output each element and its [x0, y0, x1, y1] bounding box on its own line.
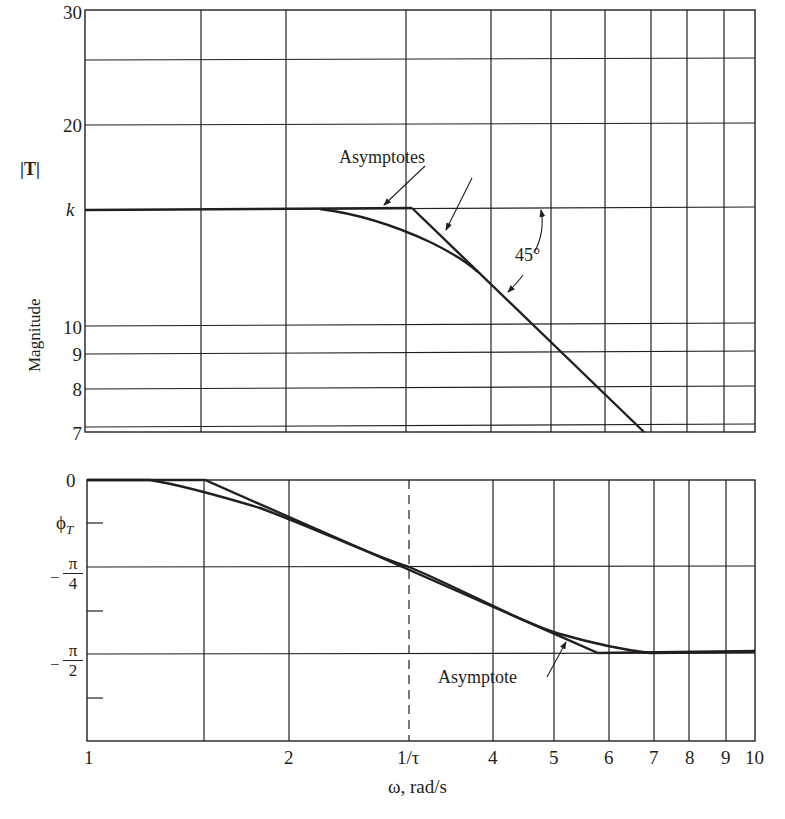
x-tick-1-over-tau: 1/τ: [397, 748, 419, 767]
asymptote-label: Asymptote: [438, 668, 517, 686]
phase-tick-0: 0: [66, 471, 76, 490]
x-tick-7: 7: [649, 748, 659, 767]
phase-tick-minus-pi-over-2: π 2: [63, 642, 83, 679]
magnitude-high-asymptote: [412, 208, 644, 432]
phi-symbol: ϕ: [56, 512, 66, 533]
mag-tick-30: 30: [42, 3, 82, 22]
angle-label: 45°: [515, 246, 540, 264]
magnitude-axis-title: Magnitude: [25, 298, 45, 372]
phase-grid: [87, 480, 755, 741]
asymptotes-label: Asymptotes: [339, 148, 425, 166]
magnitude-curves: [85, 208, 644, 432]
magnitude-grid: [85, 10, 755, 432]
pi-numerator: π: [63, 555, 83, 574]
phi-subscript: T: [66, 522, 73, 537]
magnitude-exact-curve: [320, 209, 478, 272]
two-denominator: 2: [63, 661, 83, 679]
minus-pi2-sign: −: [50, 655, 60, 675]
x-tick-9: 9: [721, 748, 731, 767]
mag-tick-7: 7: [42, 424, 82, 443]
mag-tick-10: 10: [42, 318, 82, 337]
x-tick-4: 4: [488, 748, 498, 767]
x-tick-2: 2: [284, 748, 294, 767]
x-tick-1: 1: [84, 748, 94, 767]
x-tick-6: 6: [604, 748, 614, 767]
x-tick-5: 5: [549, 748, 559, 767]
phase-symbol: ϕT: [56, 513, 73, 536]
phase-tick-minus-pi-over-4: π 4: [63, 555, 83, 592]
bode-plot-graphics: [0, 0, 785, 819]
x-tick-8: 8: [685, 748, 695, 767]
mag-tick-20: 20: [42, 116, 82, 135]
pi-numerator: π: [63, 642, 83, 661]
mag-tick-k: k: [66, 200, 74, 219]
x-axis-title: ω, rad/s: [388, 777, 447, 796]
mag-tick-9: 9: [42, 345, 82, 364]
x-tick-10: 10: [745, 748, 764, 767]
mag-tick-8: 8: [42, 380, 82, 399]
magnitude-symbol: |T|: [20, 160, 40, 178]
magnitude-low-asymptote: [85, 208, 412, 210]
four-denominator: 4: [63, 574, 83, 592]
minus-pi4-sign: −: [50, 568, 60, 588]
